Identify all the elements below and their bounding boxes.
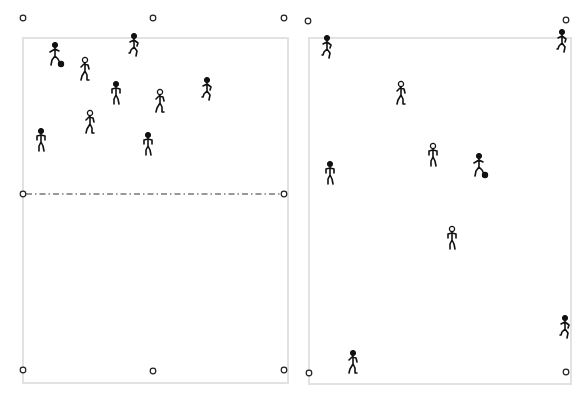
- cone-marker: [563, 369, 569, 375]
- player-figure: [156, 89, 164, 112]
- player-body-icon: [202, 83, 211, 100]
- player-head-icon: [562, 315, 567, 320]
- player-head-icon: [398, 81, 403, 86]
- cone-marker: [281, 191, 287, 197]
- cone-marker: [20, 367, 26, 373]
- player-figure: [37, 128, 45, 151]
- player-head-icon: [131, 33, 136, 38]
- player-figure: [50, 42, 64, 67]
- player-body-icon: [397, 87, 405, 104]
- player-figure: [86, 110, 94, 133]
- player-figure: [448, 226, 456, 249]
- player-head-icon: [204, 77, 209, 82]
- player-figure: [557, 29, 566, 52]
- player-figure: [81, 57, 89, 80]
- cone-marker: [20, 191, 26, 197]
- player-body-icon: [129, 39, 138, 56]
- cone-marker: [20, 15, 26, 21]
- player-head-icon: [145, 132, 150, 137]
- cone-marker: [281, 367, 287, 373]
- ball-icon: [482, 172, 488, 178]
- player-head-icon: [87, 110, 92, 115]
- player-body-icon: [448, 232, 456, 249]
- player-body-icon: [112, 87, 120, 104]
- left-pitch: [20, 15, 288, 383]
- player-figure: [560, 315, 569, 338]
- player-figure: [144, 132, 152, 155]
- cone-marker: [150, 15, 156, 21]
- player-figure: [202, 77, 211, 100]
- pitch-boundary: [309, 38, 571, 384]
- player-head-icon: [476, 153, 481, 158]
- player-figure: [474, 153, 488, 178]
- right-pitch: [305, 17, 571, 384]
- player-head-icon: [157, 89, 162, 94]
- player-figure: [129, 33, 138, 56]
- cone-marker: [150, 368, 156, 374]
- player-body-icon: [37, 134, 45, 151]
- ball-icon: [58, 61, 64, 67]
- player-head-icon: [350, 350, 355, 355]
- player-head-icon: [327, 161, 332, 166]
- player-head-icon: [559, 29, 564, 34]
- player-head-icon: [324, 35, 329, 40]
- player-figure: [326, 161, 334, 184]
- cone-marker: [563, 17, 569, 23]
- cone-marker: [306, 370, 312, 376]
- player-head-icon: [430, 143, 435, 148]
- cone-marker: [281, 15, 287, 21]
- player-figure: [397, 81, 405, 104]
- player-body-icon: [81, 63, 89, 80]
- player-figure: [349, 350, 357, 373]
- player-head-icon: [82, 57, 87, 62]
- player-body-icon: [86, 116, 94, 133]
- player-figure: [429, 143, 437, 166]
- player-body-icon: [429, 149, 437, 166]
- player-head-icon: [52, 42, 57, 47]
- player-body-icon: [560, 321, 569, 338]
- player-body-icon: [144, 138, 152, 155]
- player-figure: [112, 81, 120, 104]
- player-body-icon: [557, 35, 566, 52]
- player-body-icon: [326, 167, 334, 184]
- player-head-icon: [449, 226, 454, 231]
- player-body-icon: [156, 95, 164, 112]
- training-diagram: [0, 0, 585, 400]
- player-head-icon: [113, 81, 118, 86]
- cone-marker: [305, 18, 311, 24]
- player-body-icon: [322, 41, 331, 58]
- pitch-boundary: [23, 38, 288, 383]
- player-head-icon: [38, 128, 43, 133]
- player-body-icon: [349, 356, 357, 373]
